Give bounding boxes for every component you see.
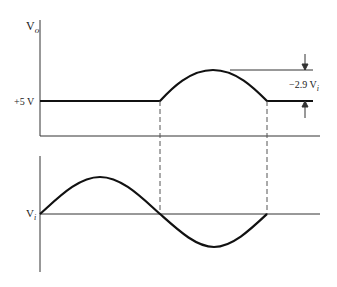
input-y-axis-label: Vi bbox=[26, 207, 36, 222]
baseline-label: +5 V bbox=[14, 96, 35, 107]
input-waveform bbox=[40, 177, 267, 247]
output-waveform bbox=[40, 70, 313, 101]
output-plot: Vo +5 V −2.9 Vi bbox=[14, 19, 320, 136]
arrow-down-icon bbox=[302, 64, 308, 70]
output-y-axis-label: Vo bbox=[26, 19, 40, 35]
amplifier-waveform-diagram: Vo +5 V −2.9 Vi Vi bbox=[0, 0, 337, 287]
projection-lines bbox=[160, 101, 267, 214]
input-plot: Vi bbox=[26, 156, 320, 272]
amplitude-annotation: −2.9 Vi bbox=[289, 79, 319, 93]
